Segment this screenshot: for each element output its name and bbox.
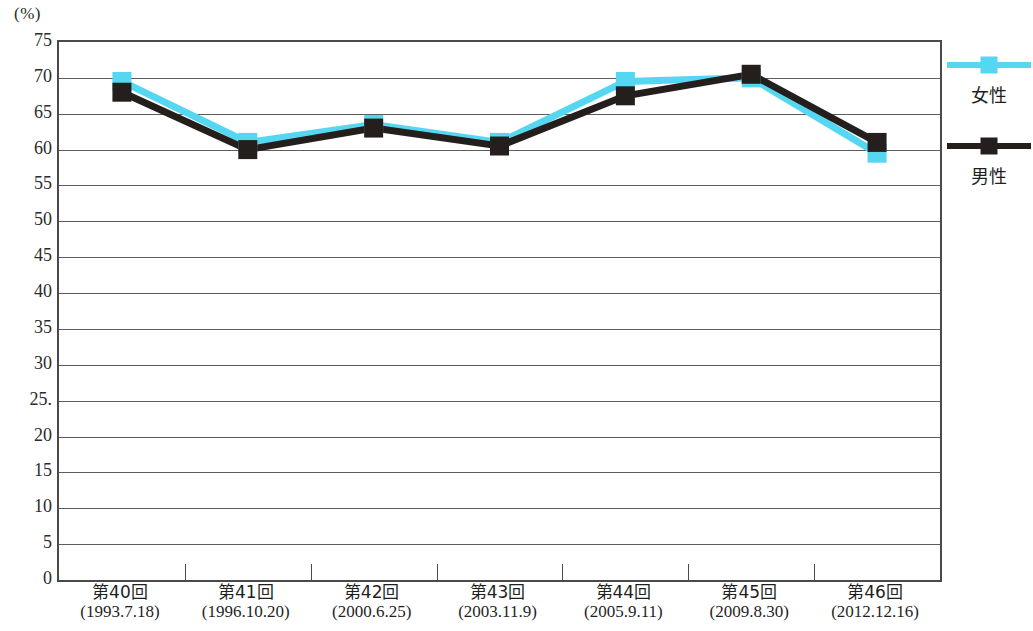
- y-axis-tick-label: 75: [0, 30, 52, 51]
- y-axis-tick-label: 65: [0, 101, 52, 122]
- y-axis-tick-label: 20: [0, 424, 52, 445]
- y-axis-tick-label: 45: [0, 245, 52, 266]
- legend-swatch: [947, 54, 1031, 76]
- x-axis-category-label: 第40回(1993.7.18): [80, 582, 159, 622]
- x-axis-category-date: (1996.10.20): [202, 602, 290, 622]
- data-point-marker: [616, 86, 635, 105]
- y-axis-tick-label: 30: [0, 352, 52, 373]
- voter-turnout-line-chart: (%) 0510152025.30354045505560657075 第40回…: [0, 0, 1033, 631]
- x-axis-category-label: 第46回(2012.12.16): [831, 582, 919, 622]
- y-axis-tick-label: 40: [0, 281, 52, 302]
- data-point-marker: [112, 83, 131, 102]
- x-axis-category-date: (2012.12.16): [831, 602, 919, 622]
- x-axis-category-name: 第40回: [80, 582, 159, 602]
- chart-legend: 女性男性: [944, 40, 1033, 200]
- y-axis-tick-label: 10: [0, 496, 52, 517]
- legend-entry[interactable]: 男性: [944, 135, 1033, 188]
- y-axis-tick-label: 0: [0, 568, 52, 589]
- x-axis-category-name: 第46回: [831, 582, 919, 602]
- x-axis-category-label: 第43回(2003.11.9): [458, 582, 537, 622]
- x-axis-category-name: 第41回: [202, 582, 290, 602]
- x-axis-category-date: (1993.7.18): [80, 602, 159, 622]
- x-axis-category-date: (2003.11.9): [458, 602, 537, 622]
- y-axis-tick-label: 60: [0, 137, 52, 158]
- legend-label: 男性: [944, 162, 1033, 188]
- plot-area: [57, 40, 942, 582]
- x-axis-category-date: (2000.6.25): [332, 602, 411, 622]
- y-axis-tick-label: 15: [0, 460, 52, 481]
- legend-marker-icon: [980, 57, 997, 74]
- data-point-marker: [364, 119, 383, 138]
- x-axis-category-label: 第44回(2005.9.11): [584, 582, 663, 622]
- x-axis-category-date: (2009.8.30): [710, 602, 789, 622]
- x-axis-category-name: 第43回: [458, 582, 537, 602]
- x-axis-category-name: 第42回: [332, 582, 411, 602]
- y-axis-tick-label: 55: [0, 173, 52, 194]
- x-axis-category-label: 第41回(1996.10.20): [202, 582, 290, 622]
- y-axis-tick-labels: 0510152025.30354045505560657075: [0, 0, 52, 631]
- x-axis-category-label: 第42回(2000.6.25): [332, 582, 411, 622]
- y-axis-tick-label: 5: [0, 532, 52, 553]
- y-axis-tick-label: 50: [0, 209, 52, 230]
- x-axis-category-date: (2005.9.11): [584, 602, 663, 622]
- data-point-marker: [742, 65, 761, 84]
- legend-swatch: [947, 135, 1031, 157]
- legend-label: 女性: [944, 81, 1033, 107]
- legend-marker-icon: [980, 138, 997, 155]
- data-point-marker: [238, 140, 257, 159]
- y-axis-tick-label: 25.: [0, 388, 52, 409]
- x-axis-category-label: 第45回(2009.8.30): [710, 582, 789, 622]
- series-plot: [59, 42, 940, 580]
- data-point-marker: [868, 133, 887, 152]
- data-point-marker: [490, 137, 509, 156]
- y-axis-tick-label: 70: [0, 65, 52, 86]
- x-axis-category-name: 第44回: [584, 582, 663, 602]
- y-axis-tick-label: 35: [0, 316, 52, 337]
- legend-entry[interactable]: 女性: [944, 54, 1033, 107]
- x-axis-category-name: 第45回: [710, 582, 789, 602]
- x-axis-category-labels: 第40回(1993.7.18)第41回(1996.10.20)第42回(2000…: [57, 582, 938, 631]
